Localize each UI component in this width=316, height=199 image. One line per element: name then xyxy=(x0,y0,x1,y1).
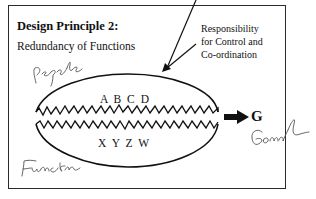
upper-group-label: A B C D xyxy=(100,93,150,105)
handwritten-function xyxy=(22,160,80,176)
goal-label: G xyxy=(251,108,263,125)
lower-group-label: X Y Z W xyxy=(98,137,151,149)
jagged-separator xyxy=(36,105,218,129)
annotation-arrow-icon xyxy=(162,0,196,72)
function-ellipse xyxy=(36,74,218,167)
diagram-graphics xyxy=(0,0,316,199)
goal-arrow-icon xyxy=(224,110,249,124)
